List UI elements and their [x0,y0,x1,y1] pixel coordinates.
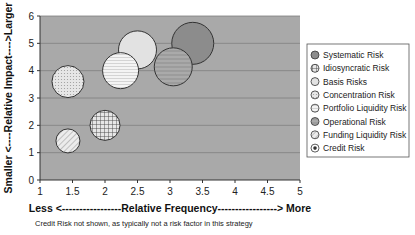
legend-swatch-icon [311,64,319,72]
x-tick-label: 5 [297,186,303,197]
x-tick-label: 1 [37,186,43,197]
legend-label: Idiosyncratic Risk [323,63,390,73]
legend-label: Funding Liquidity Risk [323,130,407,140]
y-tick-label: 4 [28,65,34,76]
legend-item: Portfolio Liquidity Risk [311,103,407,113]
legend-swatch-icon [311,118,319,126]
legend-item: Concentration Risk [311,90,396,100]
legend-swatch-icon [311,51,319,59]
legend-item: Operational Risk [311,117,387,127]
legend-label: Concentration Risk [323,90,396,100]
bubble-portfolio-liquidity-risk [103,53,139,89]
x-tick-label: 3 [167,186,173,197]
legend-label: Systematic Risk [323,50,384,60]
bubble-operational-risk [154,48,192,86]
legend-label: Basis Risks [323,77,367,87]
y-tick-label: 6 [28,11,34,22]
y-tick-label: 2 [28,120,34,131]
bubble-idiosyncratic-risk [90,110,120,140]
x-tick-label: 1.5 [66,186,80,197]
legend-item: Idiosyncratic Risk [311,63,390,73]
legend-label: Credit Risk [323,143,365,153]
legend-swatch-icon [311,104,319,112]
legend-item: Funding Liquidity Risk [311,130,407,140]
y-tick-label: 0 [28,175,34,186]
x-tick-label: 4.5 [261,186,275,197]
x-axis-title: Less <-----------------Relative Frequenc… [29,202,311,214]
legend-label: Portfolio Liquidity Risk [323,103,407,113]
x-tick-label: 2.5 [131,186,145,197]
y-tick-label: 1 [28,147,34,158]
legend-swatch-dot [313,146,317,150]
y-tick-label: 3 [28,93,34,104]
legend-swatch-icon [311,91,319,99]
y-tick-label: 5 [28,38,34,49]
y-axis-title: Smaller <----Relative Impact---->Larger [2,3,14,194]
bubble-concentration-risk [52,66,84,98]
legend: Systematic RiskIdiosyncratic RiskBasis R… [307,44,409,157]
x-tick-label: 4 [232,186,238,197]
x-tick-label: 2 [102,186,108,197]
bubble-chart: 11.522.533.544.550123456 Less <---------… [0,0,415,235]
bubble-funding-liquidity-risk [56,129,80,153]
x-tick-label: 3.5 [196,186,210,197]
footnote: Credit Risk not shown, as typically not … [35,219,253,228]
legend-swatch-icon [311,78,319,86]
legend-label: Operational Risk [323,117,387,127]
legend-swatch-icon [311,131,319,139]
legend-box [307,44,409,157]
